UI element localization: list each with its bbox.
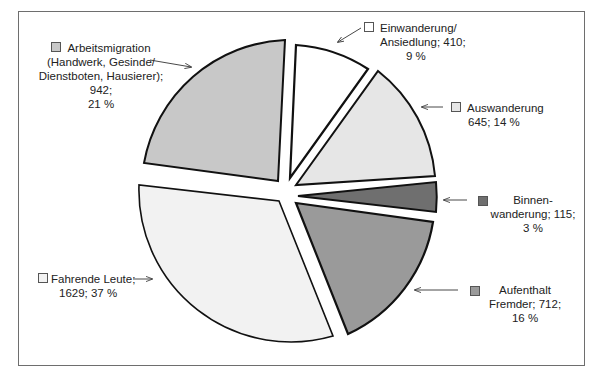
label-text: 645; 14 %	[451, 115, 544, 129]
label-text: (Handwerk, Gesinde/	[26, 55, 176, 69]
legend-swatch-auswanderung	[451, 102, 461, 112]
label-text: 16 %	[468, 311, 564, 325]
label-auswanderung: Auswanderung 645; 14 %	[451, 101, 544, 129]
label-text: Fahrende Leute;	[51, 273, 135, 285]
legend-swatch-binnen	[478, 196, 488, 206]
label-text: Arbeitsmigration	[67, 42, 150, 54]
label-text: Auswanderung	[467, 102, 544, 114]
label-text: 3 %	[476, 221, 576, 235]
legend-swatch-fahrende	[38, 273, 48, 283]
label-aufenthalt-fremder: Aufenthalt Fremder; 712; 16 %	[468, 283, 564, 325]
label-text: 1629; 37 %	[38, 286, 135, 300]
label-text: Binnen-	[476, 193, 576, 207]
legend-swatch-arbeit	[51, 42, 61, 52]
label-text: 9 %	[364, 49, 466, 63]
label-text: Dienstboten, Hausierer); 942;	[26, 69, 176, 97]
label-binnenwanderung: Binnen- wanderung; 115; 3 %	[476, 193, 576, 235]
label-text: Einwanderung/	[380, 22, 457, 34]
label-text: wanderung; 115;	[476, 207, 576, 221]
label-fahrende-leute: Fahrende Leute; 1629; 37 %	[38, 272, 135, 300]
legend-swatch-einwanderung	[364, 22, 374, 32]
label-text: Fremder; 712;	[468, 297, 564, 311]
label-text: Aufenthalt	[468, 283, 564, 297]
legend-swatch-aufenthalt	[470, 286, 480, 296]
label-arbeitsmigration: Arbeitsmigration (Handwerk, Gesinde/ Die…	[26, 41, 176, 111]
label-text: Ansiedlung; 410;	[364, 35, 466, 49]
label-einwanderung: Einwanderung/ Ansiedlung; 410; 9 %	[364, 21, 466, 63]
label-text: 21 %	[26, 97, 176, 111]
arrow-einwanderung	[338, 28, 361, 42]
